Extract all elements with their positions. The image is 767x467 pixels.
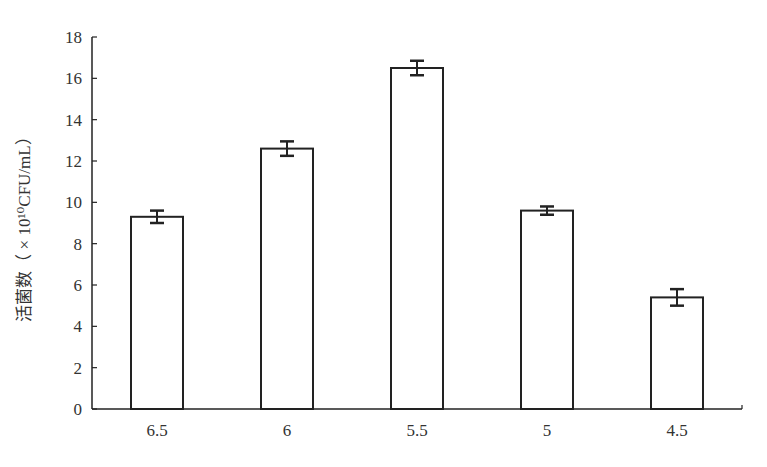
x-tick-label: 5.5	[406, 421, 427, 440]
x-tick-label: 6	[283, 421, 292, 440]
bar	[521, 211, 573, 409]
y-tick-label: 10	[65, 193, 82, 212]
bar	[131, 217, 183, 409]
x-tick-label: 6.5	[146, 421, 167, 440]
y-tick-label: 0	[74, 400, 83, 419]
x-tick-label: 4.5	[666, 421, 687, 440]
y-tick-label: 8	[74, 235, 83, 254]
y-tick-label: 16	[65, 69, 82, 88]
bar-chart: 0246810121416186.565.554.5	[0, 0, 767, 467]
y-tick-label: 18	[65, 28, 82, 47]
x-tick-label: 5	[543, 421, 552, 440]
bar	[261, 149, 313, 409]
y-tick-label: 6	[74, 276, 83, 295]
bar	[651, 297, 703, 409]
y-tick-label: 12	[65, 152, 82, 171]
y-tick-label: 2	[74, 359, 83, 378]
bar	[391, 68, 443, 409]
y-tick-label: 4	[74, 317, 83, 336]
y-tick-label: 14	[65, 111, 83, 130]
